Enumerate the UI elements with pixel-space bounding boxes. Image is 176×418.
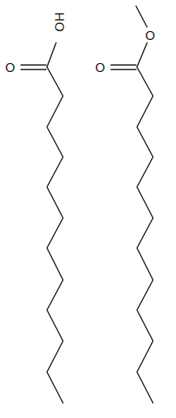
- ester-oxygen-label: O: [145, 28, 155, 43]
- molecule-carboxylic-acid: HO O: [5, 12, 67, 403]
- carbonyl-oxygen-label: O: [95, 60, 105, 75]
- o-carbonyl-bond: [137, 43, 147, 67]
- c-oh-bond: [47, 43, 56, 67]
- structure-diagram: HO O O O: [0, 0, 176, 418]
- carbonyl-oxygen-label: O: [5, 60, 15, 75]
- molecule-methyl-ester: O O: [95, 6, 155, 403]
- alkyl-chain: [47, 67, 63, 403]
- alkyl-chain: [137, 67, 153, 403]
- hydroxyl-label: HO: [52, 12, 67, 32]
- methyl-bond: [136, 6, 147, 27]
